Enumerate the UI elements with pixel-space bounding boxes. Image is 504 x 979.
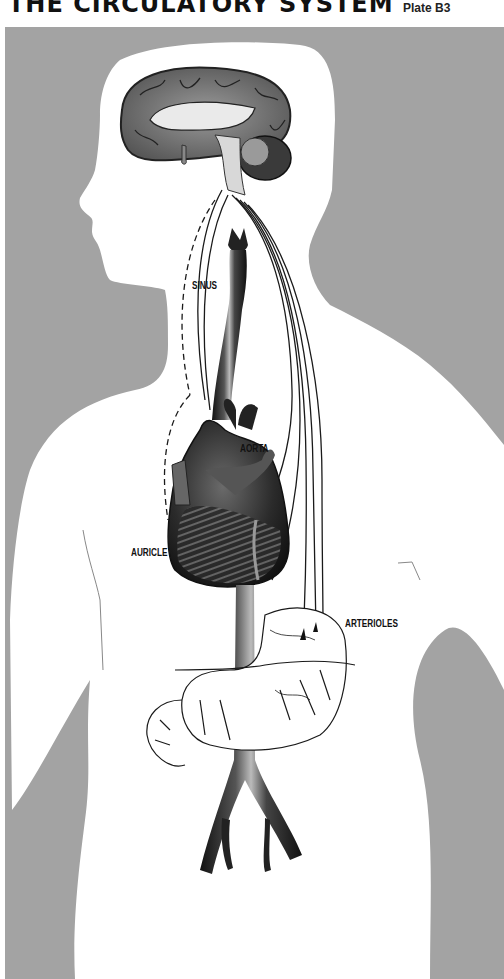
- label-sinus: SINUS: [192, 280, 217, 291]
- label-auricle: AURICLE: [131, 547, 167, 558]
- label-arterioles: ARTERIOLES: [345, 618, 398, 629]
- label-aorta: AORTA: [240, 443, 269, 454]
- circulatory-diagram: [0, 0, 504, 979]
